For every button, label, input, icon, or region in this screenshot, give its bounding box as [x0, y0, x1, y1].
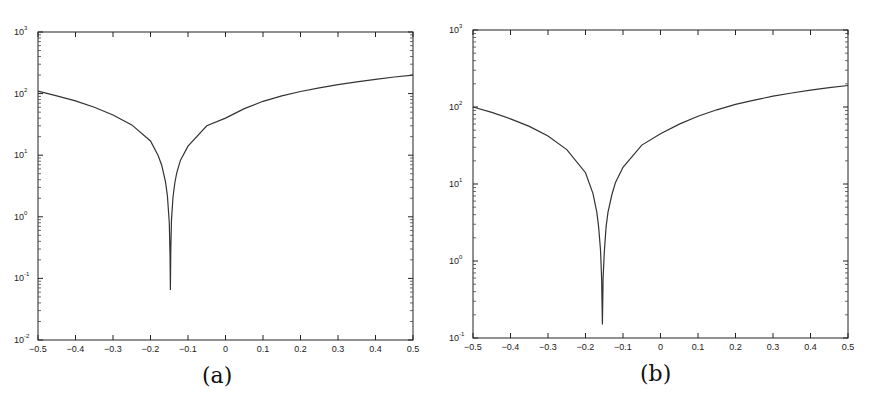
- data-line-a: [38, 75, 413, 290]
- y-tick-label: 10-1: [449, 331, 465, 343]
- x-tick-label: 0.2: [729, 342, 742, 352]
- y-tick-label: 100: [14, 210, 28, 222]
- x-tick-label: 0.1: [257, 344, 270, 354]
- caption-a: (a): [202, 363, 232, 388]
- x-axis-ticks-a: −0.5−0.4−0.3−0.2−0.100.10.20.30.40.5: [29, 32, 419, 354]
- x-tick-label: 0.5: [407, 344, 420, 354]
- y-tick-label: 103: [14, 25, 28, 37]
- y-axis-ticks-a: 10-210-1100101102103: [14, 25, 413, 345]
- x-tick-label: 0.4: [369, 344, 382, 354]
- x-tick-label: 0.3: [767, 342, 780, 352]
- x-tick-label: −0.3: [104, 344, 122, 354]
- x-tick-label: 0.1: [692, 342, 705, 352]
- y-tick-label: 102: [14, 87, 28, 99]
- x-tick-label: −0.2: [577, 342, 595, 352]
- x-tick-label: 0.4: [804, 342, 817, 352]
- y-tick-label: 10-2: [14, 333, 30, 345]
- figure: 10-210-1100101102103 −0.5−0.4−0.3−0.2−0.…: [0, 0, 871, 405]
- x-tick-label: 0: [223, 344, 228, 354]
- chart-panel-a: 10-210-1100101102103 −0.5−0.4−0.3−0.2−0.…: [14, 25, 419, 388]
- x-tick-label: −0.3: [539, 342, 557, 352]
- y-tick-label: 10-1: [14, 271, 30, 283]
- caption-b: (b): [640, 361, 671, 386]
- x-tick-label: 0: [658, 342, 663, 352]
- y-tick-label: 103: [449, 23, 463, 35]
- x-axis-ticks-b: −0.5−0.4−0.3−0.2−0.100.10.20.30.40.5: [464, 30, 854, 352]
- x-tick-label: 0.3: [332, 344, 345, 354]
- plot-area-a: [38, 32, 413, 340]
- y-tick-label: 102: [449, 100, 463, 112]
- data-line-b: [473, 86, 848, 325]
- x-tick-label: 0.2: [294, 344, 307, 354]
- x-tick-label: −0.4: [67, 344, 85, 354]
- x-tick-label: −0.5: [29, 344, 47, 354]
- y-tick-label: 100: [449, 254, 463, 266]
- x-tick-label: −0.2: [142, 344, 160, 354]
- y-tick-label: 101: [449, 177, 463, 189]
- x-tick-label: −0.5: [464, 342, 482, 352]
- x-tick-label: −0.4: [502, 342, 520, 352]
- y-axis-ticks-b: 10-1100101102103: [449, 23, 848, 343]
- plot-area-b: [473, 30, 848, 338]
- x-tick-label: −0.1: [614, 342, 632, 352]
- y-tick-label: 101: [14, 148, 28, 160]
- x-tick-label: −0.1: [179, 344, 197, 354]
- x-tick-label: 0.5: [842, 342, 855, 352]
- chart-panel-b: 10-1100101102103 −0.5−0.4−0.3−0.2−0.100.…: [449, 23, 854, 386]
